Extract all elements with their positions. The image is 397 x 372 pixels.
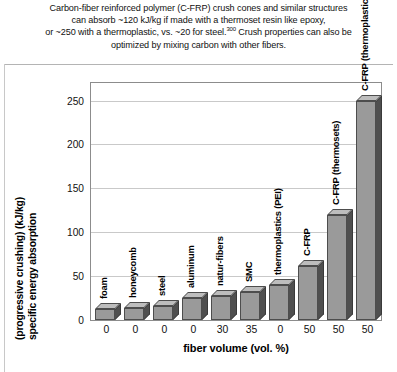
bar-front-face	[240, 292, 260, 320]
bar-label: aluminum	[185, 245, 196, 288]
bar[interactable]: C-FRP	[298, 266, 318, 320]
y-axis-tick-label: 250	[67, 95, 84, 106]
x-axis-tick-label: 35	[246, 324, 258, 335]
bar[interactable]: SMC	[240, 292, 260, 320]
y-axis-tick-label: 200	[67, 139, 84, 150]
caption-line-3: or ~250 with a thermoplastic, vs. ~20 fo…	[8, 26, 389, 38]
bar-front-face	[327, 215, 347, 320]
bar-front-face	[269, 285, 289, 320]
x-axis-title: fiber volume (vol. %)	[90, 342, 382, 354]
bar-side-face	[376, 95, 382, 320]
bar[interactable]: thermoplastics (PEI)	[269, 285, 289, 320]
bar-front-face	[211, 296, 231, 320]
y-axis-title: (progressive crushing) (kJ/kg) specific …	[24, 88, 54, 340]
caption-line-1: Carbon-fiber reinforced polymer (C-FRP) …	[8, 2, 389, 14]
x-axis-tick-labels: 000030350505050	[90, 324, 382, 340]
y-axis-tick-labels: 050100150200250	[52, 70, 86, 368]
bar-label: foam	[98, 278, 109, 300]
bar[interactable]: natur-fibers	[211, 296, 231, 320]
bar-label: C-FRP	[301, 228, 312, 256]
bar[interactable]: C-FRP (thermoplastics)	[356, 101, 376, 320]
bar-label: C-FRP (thermosets)	[330, 120, 341, 204]
y-axis-title-line-2: (progressive crushing) (kJ/kg)	[14, 197, 25, 340]
y-axis-tick-label: 50	[73, 271, 84, 282]
x-axis-tick-label: 50	[304, 324, 316, 335]
caption-line-3-tail: Crush properties can also be	[236, 27, 352, 37]
figure-caption: Carbon-fiber reinforced polymer (C-FRP) …	[0, 0, 397, 63]
bar-front-face	[124, 308, 144, 320]
x-axis-tick-label: 0	[278, 324, 284, 335]
x-axis-tick-label: 0	[191, 324, 197, 335]
bar-front-face	[95, 309, 115, 320]
caption-divider	[4, 64, 393, 65]
page-left-border	[4, 64, 5, 372]
bar-side-face	[347, 209, 353, 320]
bar-front-face	[153, 306, 173, 320]
bar-label: SMC	[243, 262, 254, 282]
bar-front-face	[182, 298, 202, 320]
x-axis-tick-label: 0	[104, 324, 110, 335]
bar-front-face	[356, 101, 376, 320]
bar-label: honeycomb	[127, 247, 138, 298]
bar[interactable]: C-FRP (thermosets)	[327, 215, 347, 320]
bar-side-face	[318, 260, 324, 320]
bar-label: natur-fibers	[214, 237, 225, 287]
bar-side-face	[289, 279, 295, 320]
plot-area-frame: foamhoneycombsteelaluminumnatur-fibersSM…	[90, 82, 382, 321]
bar[interactable]: honeycomb	[124, 308, 144, 320]
plot-area: foamhoneycombsteelaluminumnatur-fibersSM…	[91, 83, 381, 320]
x-axis-tick-label: 50	[362, 324, 374, 335]
y-axis-title-line-1: specific energy absorption	[27, 213, 38, 340]
y-axis-tick-label: 100	[67, 227, 84, 238]
bar[interactable]: aluminum	[182, 298, 202, 320]
caption-reference-superscript: 300	[226, 26, 235, 32]
x-axis-tick-label: 30	[217, 324, 229, 335]
bar-series: foamhoneycombsteelaluminumnatur-fibersSM…	[91, 83, 381, 320]
bar[interactable]: steel	[153, 306, 173, 320]
bar-label: C-FRP (thermoplastics)	[359, 0, 370, 91]
x-axis-tick-label: 0	[162, 324, 168, 335]
bar-label: steel	[156, 276, 167, 296]
caption-line-2: can absorb ~120 kJ/kg if made with a the…	[8, 14, 389, 26]
y-axis-tick-label: 150	[67, 183, 84, 194]
y-axis-tick-label: 0	[78, 315, 84, 326]
caption-line-3-head: or ~250 with a thermoplastic, vs. ~20 fo…	[45, 27, 226, 37]
x-axis-tick-label: 0	[133, 324, 139, 335]
bar-label: thermoplastics (PEI)	[272, 188, 283, 275]
x-axis-tick-label: 50	[333, 324, 345, 335]
bar-chart-figure: (progressive crushing) (kJ/kg) specific …	[8, 70, 389, 368]
caption-line-4: optimized by mixing carbon with other fi…	[8, 39, 389, 51]
bar-front-face	[298, 266, 318, 320]
bar[interactable]: foam	[95, 309, 115, 320]
